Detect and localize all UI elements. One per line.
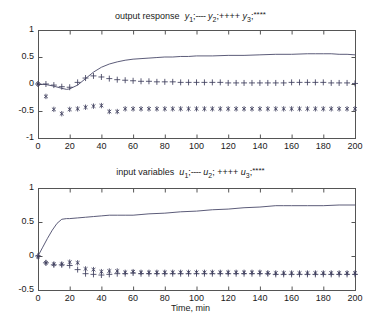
- x-tick-label: 200: [340, 294, 370, 303]
- series-markers-u3: [36, 254, 356, 275]
- x-tick-label: 20: [55, 294, 85, 303]
- x-tick-label: 180: [308, 294, 338, 303]
- x-tick-label: 160: [277, 294, 307, 303]
- x-tick-label: 120: [213, 294, 243, 303]
- plot-area-input-variables: [0, 0, 381, 332]
- y-tick-label: 1: [2, 183, 34, 192]
- series-line-u1: [38, 205, 355, 256]
- x-tick-label: 0: [23, 294, 53, 303]
- x-tick-label: 100: [182, 294, 212, 303]
- x-axis-label: Time, min: [0, 303, 381, 313]
- y-tick-label: -0.5: [2, 285, 34, 294]
- y-tick-label: 0: [2, 251, 34, 260]
- x-tick-label: 60: [118, 294, 148, 303]
- y-tick-label: 0.5: [2, 217, 34, 226]
- x-tick-label: 140: [245, 294, 275, 303]
- x-tick-label: 80: [150, 294, 180, 303]
- figure-root: output response y1;---- y2;++++ y3;**** …: [0, 0, 381, 332]
- axes-box: [39, 189, 356, 291]
- x-tick-label: 40: [86, 294, 116, 303]
